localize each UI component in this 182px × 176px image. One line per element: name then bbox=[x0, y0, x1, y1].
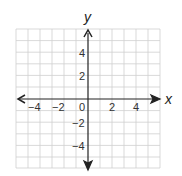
x-axis-label: x bbox=[164, 91, 173, 107]
y-tick-label: 4 bbox=[79, 47, 85, 59]
x-tick-label: −4 bbox=[28, 101, 41, 113]
x-tick-label: 2 bbox=[109, 101, 115, 113]
y-tick-label: −4 bbox=[72, 140, 85, 152]
x-tick-label: 4 bbox=[133, 101, 139, 113]
coordinate-plane: y x −4 −2 0 2 4 4 2 −2 −4 bbox=[0, 0, 182, 176]
y-axis-label: y bbox=[83, 9, 92, 25]
x-axis-right-arrow-icon bbox=[151, 95, 160, 103]
y-tick-label: 2 bbox=[79, 70, 85, 82]
y-axis bbox=[84, 30, 92, 170]
y-axis-down-arrow-icon bbox=[84, 161, 92, 170]
y-tick-label: −2 bbox=[72, 117, 85, 129]
origin-label: 0 bbox=[79, 101, 85, 113]
x-tick-label: −2 bbox=[52, 101, 65, 113]
